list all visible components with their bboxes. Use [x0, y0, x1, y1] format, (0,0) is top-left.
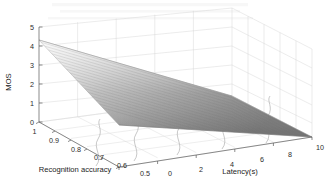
z-tick-3: 3 [30, 61, 34, 70]
z-axis-ticks: 5 4 3 2 1 0 [30, 23, 43, 127]
y-tick-0-7: 0.7 [94, 153, 104, 162]
y-tick-0-5: 0.5 [140, 169, 150, 178]
x-tick-10: 10 [316, 143, 324, 152]
x-tick-6: 6 [260, 155, 264, 164]
y-tick-0-9: 0.9 [49, 136, 59, 145]
x-tick-2: 2 [199, 165, 203, 174]
plot-canvas: 5 4 3 2 1 0 1 0.9 0.8 0.7 0.6 0.5 [0, 0, 333, 190]
y-tick-0-6: 0.6 [117, 161, 127, 170]
figure-3d-surface-plot: 5 4 3 2 1 0 1 0.9 0.8 0.7 0.6 0.5 [0, 0, 333, 190]
x-axis-title: Latency(s) [222, 167, 258, 176]
scan-noise-band [48, 3, 253, 19]
y-tick-1: 1 [33, 127, 37, 136]
z-tick-4: 4 [30, 42, 34, 51]
z-axis-title: MOS [4, 73, 13, 90]
z-tick-5: 5 [30, 23, 34, 32]
x-tick-0: 0 [168, 169, 172, 178]
z-tick-0: 0 [30, 118, 34, 127]
y-axis-title: Recognition accuracy [39, 165, 112, 174]
z-tick-2: 2 [30, 80, 34, 89]
x-tick-8: 8 [288, 150, 292, 159]
y-tick-0-8: 0.8 [71, 145, 81, 154]
z-tick-1: 1 [30, 99, 34, 108]
